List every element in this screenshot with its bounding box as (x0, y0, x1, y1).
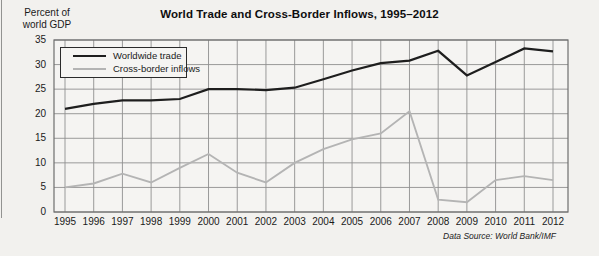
y-tick-label: 30 (16, 59, 46, 71)
y-tick-label: 5 (16, 181, 46, 193)
legend-item-cross-border-inflows: Cross-border inflows (73, 64, 186, 74)
legend-item-worldwide-trade: Worldwide trade (73, 51, 186, 61)
legend-label-cross-border-inflows: Cross-border inflows (113, 64, 200, 74)
legend-label-worldwide-trade: Worldwide trade (113, 51, 181, 61)
y-tick-label: 20 (16, 108, 46, 120)
data-source-note: Data Source: World Bank/IMF (443, 231, 556, 241)
y-tick-label: 25 (16, 83, 46, 95)
y-tick-label: 10 (16, 157, 46, 169)
x-tick-label: 2012 (536, 216, 570, 228)
y-tick-label: 0 (16, 206, 46, 218)
worldwide-trade-line-swatch (73, 55, 106, 57)
y-tick-label: 35 (16, 34, 46, 46)
y-tick-label: 15 (16, 132, 46, 144)
cross-border-inflows-line-swatch (73, 68, 106, 70)
chart-legend: Worldwide trade Cross-border inflows (60, 47, 187, 78)
figure-world-trade-chart: Percent of world GDP World Trade and Cro… (0, 0, 599, 256)
